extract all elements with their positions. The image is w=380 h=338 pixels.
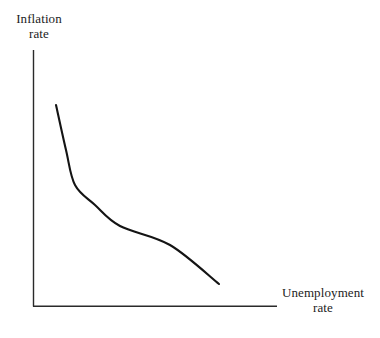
y-axis-label-line2: rate (0, 27, 78, 42)
x-axis-label-line1: Unemployment (266, 286, 380, 301)
phillips-curve-line (56, 105, 219, 284)
phillips-curve-figure: Inflation rate Unemployment rate (0, 0, 380, 338)
y-axis-label-line1: Inflation (0, 12, 78, 27)
x-axis-label-line2: rate (266, 301, 380, 316)
y-axis-label: Inflation rate (0, 12, 78, 41)
x-axis-label: Unemployment rate (266, 286, 380, 315)
